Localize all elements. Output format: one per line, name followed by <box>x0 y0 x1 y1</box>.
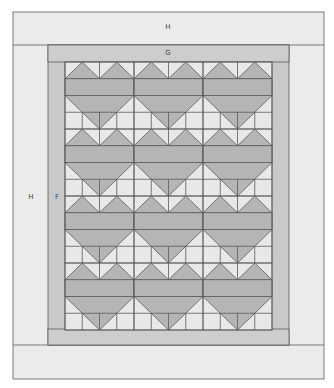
heart-bar <box>134 213 203 230</box>
heart-bar <box>203 79 272 96</box>
heart-bar <box>134 280 203 297</box>
heart-bar <box>65 146 134 163</box>
label-inner-top-border-g: G <box>165 50 170 57</box>
label-inner-left-border-f: F <box>55 194 59 201</box>
heart-bar <box>203 280 272 297</box>
heart-bar <box>134 146 203 163</box>
heart-bar <box>65 79 134 96</box>
quilt-diagram <box>0 0 334 388</box>
heart-bar <box>65 213 134 230</box>
heart-bar <box>203 213 272 230</box>
heart-bar <box>65 280 134 297</box>
heart-bar <box>134 79 203 96</box>
border-g-bottom <box>48 329 289 345</box>
heart-bar <box>203 146 272 163</box>
label-left-border-h: H <box>28 194 33 201</box>
label-top-border-h: H <box>165 24 170 31</box>
